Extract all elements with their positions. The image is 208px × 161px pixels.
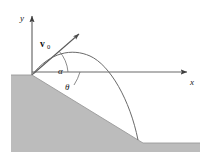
x-axis-label: x: [189, 77, 194, 87]
figure-canvas: y x v 0 α θ: [0, 0, 208, 161]
alpha-angle-label: α: [58, 66, 63, 76]
velocity-subscript-label: 0: [47, 43, 50, 50]
y-axis-label: y: [19, 13, 24, 23]
theta-angle-label: θ: [65, 82, 70, 92]
velocity-label: v: [40, 39, 45, 49]
projectile-slope-figure: y x v 0 α θ: [0, 0, 208, 161]
